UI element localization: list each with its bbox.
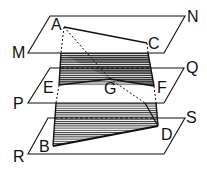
label-r: R	[13, 148, 25, 165]
hatched-region-lower	[53, 103, 158, 146]
geometry-diagram: A C N M Q E G F P S D B R	[0, 0, 207, 170]
label-s: S	[186, 109, 197, 126]
label-a: A	[51, 16, 62, 33]
segment-e-b-dashed	[56, 85, 59, 103]
label-n: N	[187, 8, 199, 25]
label-c: C	[148, 35, 160, 52]
label-p: P	[13, 95, 24, 112]
segment-ac	[64, 27, 147, 43]
label-b: B	[39, 138, 50, 155]
label-d: D	[161, 126, 173, 143]
label-e: E	[43, 79, 54, 96]
label-g: G	[104, 80, 116, 97]
label-q: Q	[186, 59, 198, 76]
label-f: F	[157, 79, 167, 96]
label-m: M	[12, 44, 25, 61]
segment-f-d-dashed	[154, 86, 156, 103]
